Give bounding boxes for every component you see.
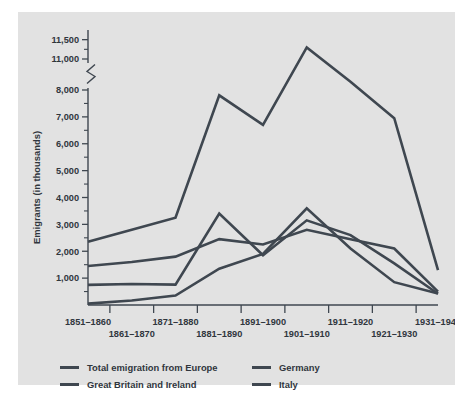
- x-axis: [88, 305, 438, 313]
- legend-item-total-emigration-from-europe: Total emigration from Europe: [60, 362, 252, 373]
- y-tick-label: 7,000: [56, 112, 79, 122]
- x-tick-label: 1901–1910: [284, 329, 330, 339]
- legend-label: Great Britain and Ireland: [87, 379, 196, 390]
- legend-item-germany: Germany: [252, 362, 320, 373]
- y-axis: 1,0002,0003,0004,0005,0006,0007,0008,000…: [51, 30, 95, 305]
- x-axis-tick-labels: 1851–18601861–18701871–18801881–18901891…: [65, 317, 455, 339]
- legend-label: Total emigration from Europe: [87, 362, 218, 373]
- legend-item-italy: Italy: [252, 379, 298, 390]
- legend-row: Great Britain and Ireland Italy: [60, 376, 460, 393]
- legend-label: Germany: [279, 362, 320, 373]
- chart-legend: Total emigration from Europe Germany Gre…: [60, 359, 460, 393]
- legend-swatch-icon: [252, 366, 271, 369]
- y-tick-label: 1,000: [56, 273, 79, 283]
- y-tick-label: 4,000: [56, 193, 79, 203]
- y-axis-title-text: Emigrants (in thousands): [31, 131, 42, 244]
- legend-row: Total emigration from Europe Germany: [60, 359, 460, 376]
- x-tick-label: 1871–1880: [153, 317, 199, 327]
- legend-item-great-britain-and-ireland: Great Britain and Ireland: [60, 379, 252, 390]
- line-chart-plot: 1,0002,0003,0004,0005,0006,0007,0008,000…: [18, 12, 455, 385]
- y-tick-label: 5,000: [56, 166, 79, 176]
- y-tick-label: 2,000: [56, 247, 79, 257]
- x-tick-label: 1891–1900: [240, 317, 286, 327]
- axis-break-icon: [87, 65, 95, 84]
- y-tick-label: 11,500: [51, 35, 79, 45]
- y-tick-label: 8,000: [56, 85, 79, 95]
- series-lines: [88, 47, 438, 303]
- x-tick-label: 1921–1930: [371, 329, 417, 339]
- x-tick-label: 1931–1940: [415, 317, 455, 327]
- legend-label: Italy: [279, 379, 298, 390]
- legend-swatch-icon: [252, 383, 271, 386]
- x-tick-label: 1881–1890: [196, 329, 242, 339]
- y-tick-label: 11,000: [51, 54, 79, 64]
- x-tick-label: 1861–1870: [109, 329, 155, 339]
- legend-swatch-icon: [60, 366, 79, 369]
- legend-swatch-icon: [60, 383, 79, 386]
- y-tick-label: 6,000: [56, 139, 79, 149]
- y-axis-title: Emigrants (in thousands): [31, 131, 42, 244]
- x-tick-label: 1851–1860: [65, 317, 111, 327]
- x-tick-label: 1911–1920: [328, 317, 373, 327]
- series-line-total-emigration-from-europe: [88, 47, 438, 270]
- y-tick-label: 3,000: [56, 220, 79, 230]
- chart-figure: 1,0002,0003,0004,0005,0006,0007,0008,000…: [18, 12, 455, 385]
- series-line-great-britain-and-ireland: [88, 230, 438, 292]
